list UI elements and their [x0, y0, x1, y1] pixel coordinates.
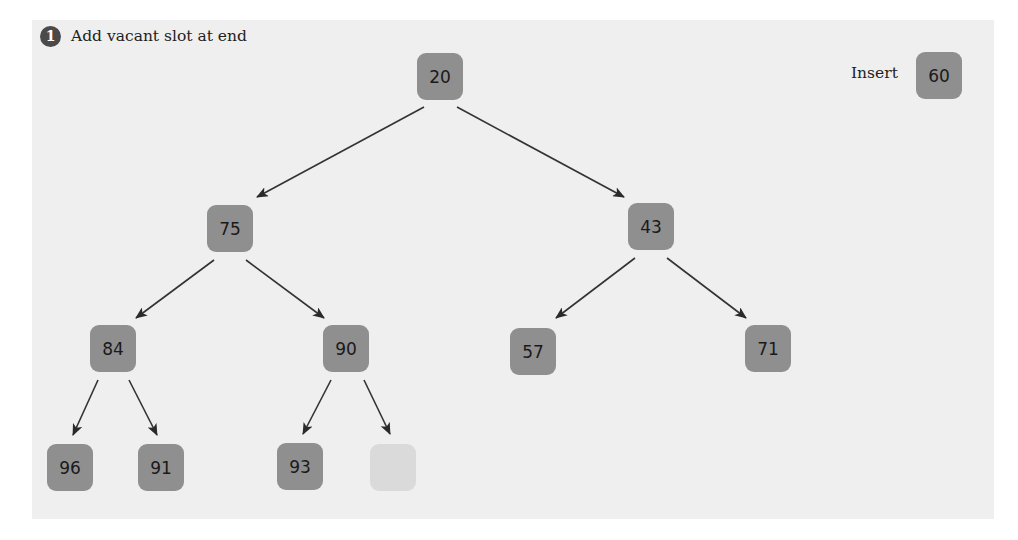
- tree-node: 96: [47, 444, 93, 491]
- vacant-slot-node: [370, 444, 416, 491]
- tree-node: 75: [207, 205, 253, 252]
- edge-43-57: [556, 258, 635, 318]
- insert-value-node: 60: [916, 52, 962, 99]
- edge-75-84: [136, 260, 214, 318]
- tree-node: 91: [138, 444, 184, 491]
- edge-20-75: [257, 107, 424, 197]
- tree-node: 57: [510, 328, 556, 375]
- edge-43-71: [667, 258, 746, 318]
- edge-84-91: [129, 380, 157, 435]
- tree-node-root: 20: [417, 53, 463, 100]
- tree-node: 90: [323, 325, 369, 372]
- edge-90-vacant: [364, 380, 390, 434]
- tree-node: 93: [277, 443, 323, 490]
- tree-node: 84: [90, 325, 136, 372]
- insert-label: Insert: [851, 64, 898, 82]
- tree-node: 43: [628, 203, 674, 250]
- edge-20-43: [457, 107, 624, 197]
- tree-node: 71: [745, 325, 791, 372]
- edge-90-93: [303, 380, 331, 434]
- edge-84-96: [73, 380, 98, 435]
- edge-75-90: [246, 260, 324, 318]
